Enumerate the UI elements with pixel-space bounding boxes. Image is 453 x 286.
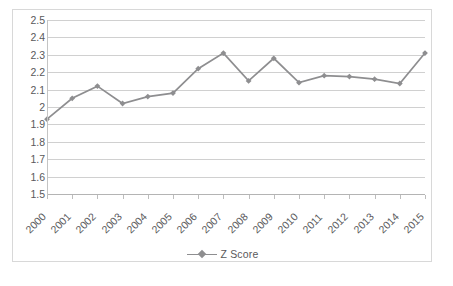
x-tick-label: 2006 — [174, 210, 199, 235]
y-tick-label: 2.2 — [19, 67, 45, 77]
y-axis-line — [47, 20, 48, 195]
y-tick-label: 1.5 — [19, 189, 45, 199]
x-tick-label: 2010 — [275, 210, 300, 235]
data-point-marker — [372, 76, 378, 82]
x-tick-mark — [123, 195, 124, 199]
x-tick-mark — [274, 195, 275, 199]
x-tick-label: 2011 — [300, 211, 324, 235]
x-tick-label: 2012 — [325, 210, 350, 235]
x-tick-mark — [72, 195, 73, 199]
data-point-marker — [145, 94, 151, 100]
x-tick-label: 2009 — [250, 210, 275, 235]
y-tick-label: 1.6 — [19, 172, 45, 182]
y-tick-label: 2.4 — [19, 32, 45, 42]
plot-area — [47, 20, 425, 194]
legend-line-marker-icon — [187, 250, 217, 259]
x-tick-mark — [425, 195, 426, 199]
x-tick-mark — [349, 195, 350, 199]
chart-container: 2.52.42.32.22.121.91.81.71.61.5 20002001… — [12, 9, 432, 262]
x-tick-label: 2015 — [401, 210, 426, 235]
x-tick-mark — [47, 195, 48, 199]
y-tick-label: 2.3 — [19, 50, 45, 60]
x-tick-label: 2013 — [351, 210, 376, 235]
x-tick-mark — [173, 195, 174, 199]
y-tick-label: 2 — [19, 102, 45, 112]
y-tick-label: 1.8 — [19, 137, 45, 147]
data-point-marker — [321, 73, 327, 79]
x-tick-label: 2001 — [48, 210, 73, 235]
x-tick-label: 2007 — [199, 210, 224, 235]
x-tick-mark — [375, 195, 376, 199]
chart-legend: Z Score — [13, 248, 433, 261]
x-tick-label: 2014 — [376, 210, 401, 235]
y-tick-label: 2.5 — [19, 15, 45, 25]
x-axis-tick-marks — [47, 195, 425, 199]
x-tick-mark — [148, 195, 149, 199]
x-tick-mark — [324, 195, 325, 199]
x-tick-label: 2002 — [73, 210, 98, 235]
y-tick-label: 1.9 — [19, 119, 45, 129]
x-tick-mark — [249, 195, 250, 199]
y-tick-label: 2.1 — [19, 85, 45, 95]
series-z-score — [47, 20, 425, 194]
series-line — [47, 53, 425, 119]
x-axis-tick-labels: 2000200120022003200420052006200720082009… — [47, 200, 425, 246]
x-tick-mark — [400, 195, 401, 199]
y-axis-tick-labels: 2.52.42.32.22.121.91.81.71.61.5 — [15, 20, 45, 194]
legend-item-z-score[interactable]: Z Score — [187, 248, 258, 260]
legend-item-label: Z Score — [220, 248, 258, 260]
x-tick-mark — [97, 195, 98, 199]
x-tick-mark — [223, 195, 224, 199]
y-tick-label: 1.7 — [19, 154, 45, 164]
x-tick-label: 2004 — [124, 210, 149, 235]
x-tick-label: 2008 — [225, 210, 250, 235]
x-tick-mark — [299, 195, 300, 199]
x-tick-label: 2000 — [23, 210, 48, 235]
x-tick-label: 2003 — [99, 210, 124, 235]
x-tick-label: 2005 — [149, 210, 174, 235]
data-point-marker — [347, 74, 353, 80]
x-tick-mark — [198, 195, 199, 199]
